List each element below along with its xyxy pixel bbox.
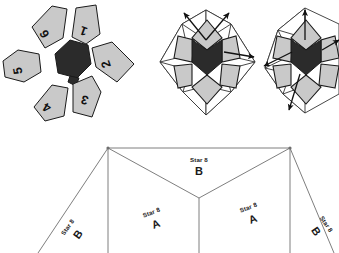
net-panel-a-right-title: Star 8 [239, 201, 259, 214]
net-panel-b-right: Star 8 B [306, 215, 334, 243]
net-panel-b-top: Star 8 B [190, 156, 208, 177]
piece-2: 2 [92, 42, 134, 82]
piece-3: 3 [73, 76, 101, 117]
net-panel-a-right: Star 8 A [239, 201, 264, 228]
piece-5: 5 [3, 50, 41, 82]
net-panel-b-top-title: Star 8 [190, 156, 208, 163]
figure-exploded-star: 6 1 2 3 4 [3, 5, 134, 121]
net-panel-a-left: Star 8 A [142, 206, 167, 233]
net-panel-a-left-title: Star 8 [142, 206, 162, 219]
net-panel-b-top-letter: B [195, 165, 203, 177]
net-panel-b-left: Star 8 B [59, 217, 87, 245]
net-panel-b-left-letter: B [70, 227, 84, 240]
piece-4: 4 [34, 85, 68, 121]
diagram-stage: 6 1 2 3 4 [0, 0, 339, 253]
star8-illustration: 6 1 2 3 4 [0, 0, 339, 253]
figure-star8-net: Star 8 B Star 8 A Star 8 A Star 8 B Star… [38, 146, 335, 253]
net-panel-a-left-letter: A [150, 217, 162, 231]
net-vertex-left [106, 146, 109, 149]
net-panel-b-right-letter: B [309, 224, 323, 237]
piece-6: 6 [32, 6, 67, 48]
net-vertex-right [288, 146, 291, 149]
figure-assembled-star [160, 8, 255, 115]
net-panel-a-right-letter: A [247, 212, 259, 226]
figure-assembled-star-clipped [264, 8, 339, 113]
piece-1: 1 [72, 5, 100, 44]
